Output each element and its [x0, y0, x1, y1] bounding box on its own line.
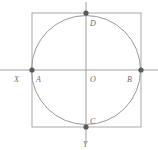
point-a-marker — [29, 67, 34, 72]
figure-canvas: X Y A B C D O — [0, 0, 158, 150]
point-b-label: B — [127, 75, 132, 84]
point-a-label: A — [35, 75, 41, 84]
point-b-marker — [138, 67, 143, 72]
point-c-marker — [83, 124, 88, 129]
point-c-label: C — [90, 117, 96, 126]
y-axis-label: Y — [83, 140, 89, 149]
point-d-label: D — [89, 19, 96, 28]
x-axis-label: X — [13, 75, 20, 84]
geometry-figure: X Y A B C D O — [0, 0, 158, 150]
point-d-marker — [83, 10, 88, 15]
point-o-label: O — [90, 75, 96, 84]
